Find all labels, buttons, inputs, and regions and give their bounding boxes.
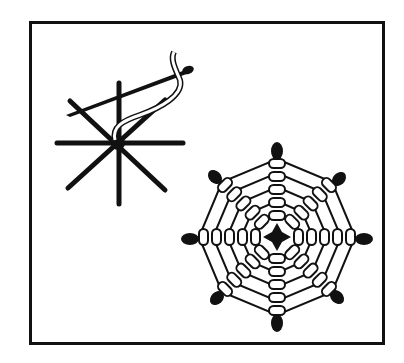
spider-web-icon bbox=[181, 142, 373, 332]
stitch-diagram bbox=[0, 0, 404, 363]
